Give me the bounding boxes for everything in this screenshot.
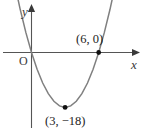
y-axis-arrowhead	[28, 4, 35, 12]
x-axis-label: x	[131, 58, 137, 71]
root-coordinate-label: (6, 0)	[76, 33, 103, 46]
vertex-point-marker	[63, 105, 68, 110]
root-point-marker	[96, 50, 101, 55]
vertex-coordinate-label: (3, −18)	[45, 115, 85, 128]
x-axis-arrowhead	[132, 49, 140, 56]
origin-label: O	[19, 55, 28, 67]
parabola-figure: y x O (6, 0) (3, −18)	[0, 0, 144, 131]
y-axis-label: y	[22, 5, 28, 18]
